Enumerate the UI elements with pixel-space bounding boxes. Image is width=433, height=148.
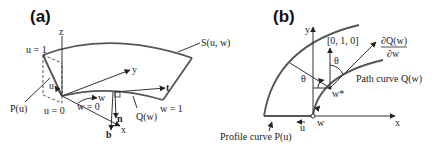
n-label: n xyxy=(117,113,123,124)
u-equals-1-label: u = 1 xyxy=(26,44,47,55)
w-equals-1-label: w = 1 xyxy=(160,103,183,114)
y-axis-b-label: y xyxy=(305,24,310,35)
panel-b-label: (b) xyxy=(273,7,295,26)
surface-leader xyxy=(178,43,200,52)
x-axis-b-label: x xyxy=(395,117,400,128)
w-label-b: w xyxy=(317,117,325,128)
binormal-vector xyxy=(111,92,113,130)
profile-leader xyxy=(25,78,50,102)
profile-leader-b xyxy=(269,122,272,131)
tangent-vector xyxy=(115,88,165,92)
right-angle-marker xyxy=(115,92,120,97)
u-equals-0-label: u = 0 xyxy=(44,105,65,116)
path-leader xyxy=(133,96,137,108)
origin-point xyxy=(311,114,315,118)
path-q-label: Q(w) xyxy=(136,111,157,123)
w-arrow-b xyxy=(316,106,320,110)
b-label: b xyxy=(106,129,112,140)
profile-curve-label: Profile curve P(u) xyxy=(220,131,292,143)
panel-a-label: (a) xyxy=(30,7,51,26)
x-axis-label: x xyxy=(121,124,126,135)
theta-arc-upper xyxy=(330,65,343,74)
figure: (a) z y x u w t n b u = 1 u = 0 xyxy=(0,0,433,148)
w-star-label: w* xyxy=(332,88,344,99)
normal-line xyxy=(290,63,330,88)
y-axis-label: y xyxy=(132,64,137,75)
theta-upper-label: θ xyxy=(334,55,339,66)
theta-lower-label: θ xyxy=(301,73,306,84)
surface-top-edge xyxy=(43,43,192,58)
up-vector-label: [0, 1, 0] xyxy=(327,35,359,46)
panel-a: (a) z y x u w t n b u = 1 u = 0 xyxy=(10,7,230,140)
panel-b: (b) x y [0, 1, 0] ∂Q(w) ∂w θ θ w* w xyxy=(220,7,422,143)
path-curve-label: Path curve Q(w) xyxy=(356,73,422,85)
u-label-b: u xyxy=(300,122,305,133)
profile-p-label: P(u) xyxy=(10,103,27,115)
z-axis-label: z xyxy=(59,26,64,37)
w-equals-0-label: w = 0 xyxy=(77,101,100,112)
u-vector-label: u xyxy=(49,80,54,91)
derivative-numerator: ∂Q(w) xyxy=(381,35,407,47)
surface-right-edge xyxy=(163,58,192,100)
derivative-denominator: ∂w xyxy=(387,48,400,59)
surface-s-label: S(u, w) xyxy=(201,37,230,49)
